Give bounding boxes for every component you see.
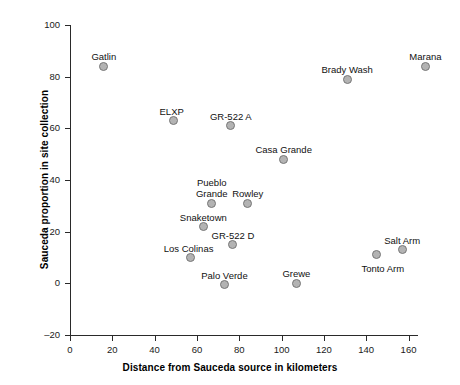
x-tick-label: 40	[135, 345, 175, 355]
y-tick-label: 60	[0, 123, 60, 133]
x-tick-label: 100	[262, 345, 302, 355]
scatter-plot-figure: –20020406080100 020406080100120140160 Di…	[0, 0, 460, 385]
data-point[interactable]	[207, 199, 216, 208]
data-point[interactable]	[372, 250, 381, 259]
data-point[interactable]	[421, 62, 430, 71]
y-tick-label: 40	[0, 175, 60, 185]
x-tick-mark	[239, 336, 240, 341]
data-point[interactable]	[99, 62, 108, 71]
data-point[interactable]	[220, 280, 229, 289]
data-point-label: Grewe	[282, 268, 310, 279]
data-point[interactable]	[199, 222, 208, 231]
data-point-label: Pueblo Grande	[196, 177, 228, 199]
data-point-label: Salt Arm	[384, 235, 420, 246]
data-point-label: Snaketown	[180, 212, 227, 223]
y-tick-label: –20	[0, 330, 60, 340]
data-point-label: Tonto Arm	[361, 263, 404, 274]
x-axis-title: Distance from Sauceda source in kilomete…	[0, 362, 460, 373]
y-axis-title: Sauceda proportion in site collection	[39, 50, 50, 310]
data-point-label: Marana	[409, 51, 441, 62]
data-point-label: Palo Verde	[201, 270, 247, 281]
plot-area: GatlinELXPGR-522 ACasa GrandeBrady WashM…	[70, 25, 417, 335]
x-tick-label: 0	[50, 345, 90, 355]
data-point[interactable]	[169, 116, 178, 125]
data-point-label: Gatlin	[91, 51, 116, 62]
x-tick-label: 120	[304, 345, 344, 355]
data-point[interactable]	[279, 155, 288, 164]
x-tick-mark	[409, 336, 410, 341]
x-tick-mark	[197, 336, 198, 341]
x-tick-mark	[70, 336, 71, 341]
data-point-label: ELXP	[160, 106, 184, 117]
data-point[interactable]	[243, 199, 252, 208]
x-tick-mark	[324, 336, 325, 341]
x-tick-label: 140	[346, 345, 386, 355]
data-point-label: GR-522 A	[210, 111, 252, 122]
data-point[interactable]	[186, 253, 195, 262]
data-point[interactable]	[226, 121, 235, 130]
data-point[interactable]	[343, 75, 352, 84]
x-tick-label: 160	[389, 345, 429, 355]
x-tick-label: 80	[219, 345, 259, 355]
data-point-label: Los Colinas	[164, 243, 214, 254]
data-point-label: Rowley	[232, 188, 263, 199]
x-tick-label: 20	[92, 345, 132, 355]
y-tick-label: 20	[0, 227, 60, 237]
y-tick-label: 80	[0, 72, 60, 82]
data-point-label: Brady Wash	[321, 64, 372, 75]
data-point[interactable]	[292, 279, 301, 288]
x-tick-mark	[155, 336, 156, 341]
x-tick-mark	[112, 336, 113, 341]
x-tick-label: 60	[177, 345, 217, 355]
data-point-label: Casa Grande	[255, 144, 312, 155]
data-point[interactable]	[398, 245, 407, 254]
y-tick-label: 0	[0, 278, 60, 288]
x-tick-mark	[282, 336, 283, 341]
data-point-label: GR-522 D	[212, 230, 255, 241]
y-tick-label: 100	[0, 20, 60, 30]
data-point[interactable]	[228, 240, 237, 249]
x-tick-mark	[366, 336, 367, 341]
